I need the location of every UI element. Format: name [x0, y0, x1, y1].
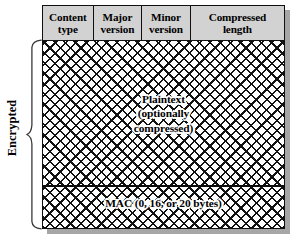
mac-label: MAC (0, 16, or 20 bytes) — [42, 197, 285, 210]
mac-section-divider — [42, 185, 285, 187]
encrypted-brace-icon — [26, 39, 42, 230]
header-cell-minor-version-line2: version — [149, 23, 183, 35]
header-cell-major-version: Major version — [94, 6, 143, 40]
plaintext-label: Plaintext (optionally compressed) — [42, 92, 285, 135]
record-header-row: Content type Major version Minor version… — [42, 5, 285, 41]
mac-label-text: MAC (0, 16, or 20 bytes) — [104, 197, 223, 210]
header-cell-major-version-line2: version — [100, 23, 134, 35]
header-cell-content-type-line1: Content — [49, 11, 86, 23]
header-cell-compressed-length-line2: length — [223, 23, 252, 35]
header-cell-content-type: Content type — [43, 6, 94, 40]
plaintext-label-line3: compressed) — [133, 121, 194, 135]
tls-record-format-diagram: Content type Major version Minor version… — [0, 0, 301, 242]
encrypted-bracket-label: Encrypted — [5, 83, 23, 173]
header-cell-content-type-line2: type — [58, 23, 78, 35]
header-cell-minor-version-line1: Minor — [151, 11, 181, 23]
plaintext-label-line2: (optionally — [137, 106, 190, 120]
header-cell-major-version-line1: Major — [103, 11, 133, 23]
header-cell-compressed-length-line1: Compressed — [209, 11, 266, 23]
header-cell-compressed-length: Compressed length — [191, 6, 284, 40]
plaintext-label-line1: Plaintext — [141, 92, 186, 106]
header-cell-minor-version: Minor version — [142, 6, 191, 40]
